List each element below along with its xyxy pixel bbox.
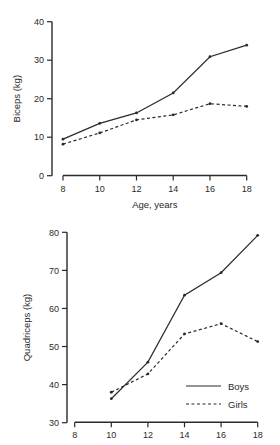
legend-girls-label: Girls: [228, 399, 248, 410]
data-point: [183, 294, 186, 297]
data-point: [98, 122, 101, 125]
y-tick-label: 40: [34, 17, 44, 27]
x-tick-label: 14: [179, 430, 189, 440]
data-point: [147, 361, 150, 364]
x-tick-label: 10: [106, 430, 116, 440]
data-point: [110, 391, 113, 394]
x-tick-label: 12: [143, 430, 153, 440]
x-tick-label: 8: [72, 430, 77, 440]
y-tick-label: 10: [34, 132, 44, 142]
y-tick-label: 50: [49, 342, 59, 352]
y-tick-label: 80: [49, 228, 59, 238]
y-tick-label: 20: [34, 94, 44, 104]
data-point: [135, 118, 138, 121]
x-tick-label: 18: [253, 430, 263, 440]
x-tick-label: 10: [95, 184, 105, 194]
x-axis-title: Age, years: [132, 199, 178, 210]
legend: Boys Girls: [186, 381, 249, 410]
series-boys-line: [63, 45, 247, 139]
y-tick-label: 60: [49, 304, 59, 314]
y-tick-label: 30: [49, 418, 59, 428]
y-axis-title: Quadriceps (kg): [21, 294, 32, 362]
x-tick-label: 12: [131, 184, 141, 194]
data-point: [220, 322, 223, 325]
data-point: [183, 333, 186, 336]
x-tick-label: 16: [205, 184, 215, 194]
biceps-chart: 01020304081012141618Age, yearsBiceps (kg…: [11, 17, 252, 210]
data-point: [62, 138, 65, 141]
data-point: [256, 234, 259, 237]
data-point: [172, 113, 175, 116]
series-girls-line: [63, 104, 247, 144]
x-tick-label: 14: [168, 184, 178, 194]
y-tick-label: 30: [34, 55, 44, 65]
data-point: [220, 271, 223, 274]
data-point: [110, 397, 113, 400]
data-point: [62, 143, 65, 146]
y-tick-label: 40: [49, 380, 59, 390]
data-point: [98, 132, 101, 135]
data-point: [172, 92, 175, 95]
data-point: [209, 102, 212, 105]
x-tick-label: 18: [242, 184, 252, 194]
chart-figure: 01020304081012141618Age, yearsBiceps (kg…: [0, 0, 280, 445]
data-point: [209, 55, 212, 58]
y-axis-title: Biceps (kg): [11, 75, 22, 123]
data-point: [135, 112, 138, 115]
data-point: [245, 105, 248, 108]
x-tick-label: 8: [60, 184, 65, 194]
legend-boys-label: Boys: [228, 381, 249, 392]
data-point: [245, 44, 248, 47]
series-boys-line: [111, 235, 257, 398]
x-tick-label: 16: [216, 430, 226, 440]
data-point: [256, 340, 259, 343]
y-tick-label: 70: [49, 266, 59, 276]
quadriceps-chart: 30405060708081012141618Quadriceps (kg): [21, 228, 263, 441]
y-tick-label: 0: [39, 171, 44, 181]
data-point: [147, 373, 150, 376]
